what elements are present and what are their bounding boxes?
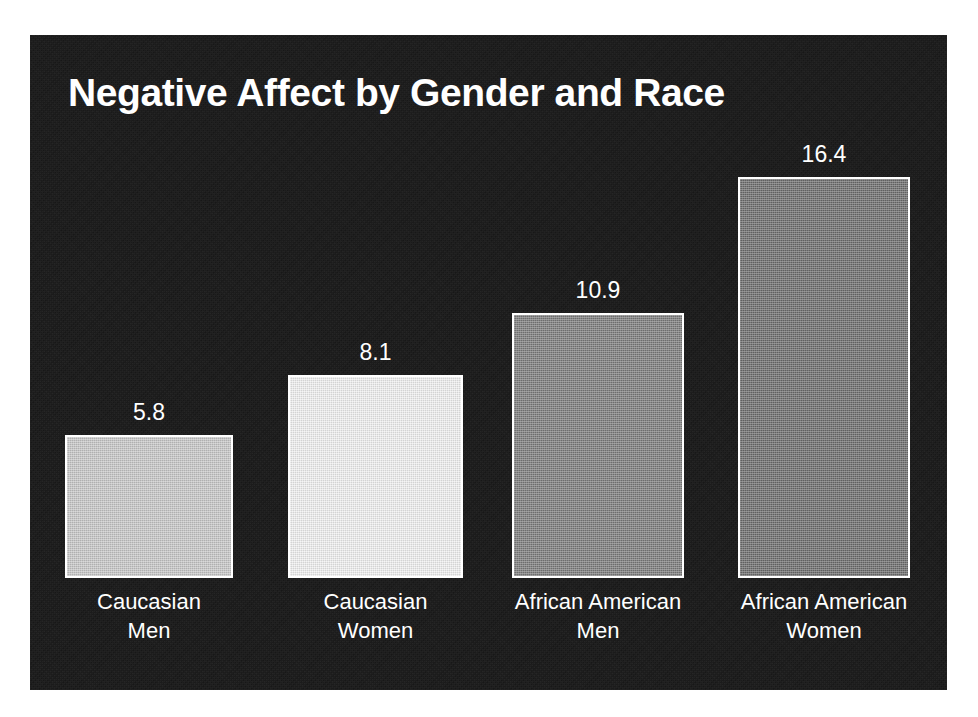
bar-category-label: Caucasian Women xyxy=(260,587,491,645)
bar-value-label: 5.8 xyxy=(65,399,233,426)
bar-group-caucasian-men: 5.8 Caucasian Men xyxy=(65,435,233,578)
bar-value-label: 8.1 xyxy=(288,339,463,366)
bar-category-label: African American Men xyxy=(484,587,712,645)
bar-category-label-line2: Men xyxy=(484,616,712,645)
bar-category-label-line2: Women xyxy=(260,616,491,645)
bar-african-american-men[interactable] xyxy=(512,313,684,578)
chart-panel: Negative Affect by Gender and Race 5.8 C… xyxy=(30,35,947,690)
bar-group-caucasian-women: 8.1 Caucasian Women xyxy=(288,375,463,578)
chart-title: Negative Affect by Gender and Race xyxy=(68,71,725,115)
bar-caucasian-men[interactable] xyxy=(65,435,233,578)
bar-category-label-line1: African American xyxy=(515,589,681,614)
bar-category-label-line1: African American xyxy=(741,589,907,614)
bar-value-label: 10.9 xyxy=(512,277,684,304)
bar-category-label: Caucasian Men xyxy=(37,587,261,645)
bar-group-african-american-women: 16.4 African American Women xyxy=(738,177,910,578)
bar-african-american-women[interactable] xyxy=(738,177,910,578)
bar-group-african-american-men: 10.9 African American Men xyxy=(512,313,684,578)
chart-page: Negative Affect by Gender and Race 5.8 C… xyxy=(0,0,978,717)
plot-area: 5.8 Caucasian Men 8.1 Caucasian Women 10… xyxy=(30,35,947,690)
bar-category-label-line1: Caucasian xyxy=(324,589,428,614)
bar-value-label: 16.4 xyxy=(738,141,910,168)
bar-caucasian-women[interactable] xyxy=(288,375,463,578)
bar-category-label: African American Women xyxy=(710,587,938,645)
bar-category-label-line2: Women xyxy=(710,616,938,645)
bar-category-label-line1: Caucasian xyxy=(97,589,201,614)
bar-category-label-line2: Men xyxy=(37,616,261,645)
